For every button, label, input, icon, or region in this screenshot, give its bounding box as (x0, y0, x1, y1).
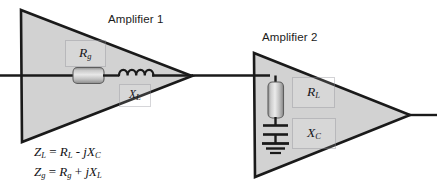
label-xl-sub: L (136, 92, 141, 102)
amplifier-1-title: Amplifier 1 (108, 13, 163, 25)
label-capacitor-xc: XC (292, 118, 336, 149)
resistor-rl-body (268, 82, 284, 118)
equations-block: ZL = RL - jXC Zg = Rg + jXL (34, 142, 102, 181)
label-resistor-rg: Rg (65, 40, 106, 67)
label-rl-main: R (307, 84, 315, 99)
amplifier-2-title: Amplifier 2 (262, 31, 317, 43)
label-xc-main: X (307, 125, 315, 140)
equation-source-impedance: Zg = Rg + jXL (34, 162, 102, 182)
eq2-operator: + (72, 164, 86, 179)
label-xc-sub: C (315, 131, 321, 141)
eq1-t2-main: X (87, 144, 95, 159)
eq2-equals: = (45, 164, 59, 179)
label-xl-main: X (129, 88, 136, 100)
eq1-t2-sub: C (95, 150, 101, 160)
eq2-t2-main: X (89, 164, 97, 179)
label-resistor-rl: RL (292, 77, 335, 108)
label-rg-sub: g (87, 51, 91, 61)
eq1-operator: - (73, 144, 84, 159)
eq1-t1-main: R (60, 144, 68, 159)
label-rl-sub: L (315, 90, 320, 100)
circuit-diagram: Amplifier 1 Amplifier 2 Rg XL RL XC ZL =… (0, 0, 437, 187)
equation-load-impedance: ZL = RL - jXC (34, 142, 102, 162)
eq2-t2-sub: L (97, 170, 102, 180)
eq1-equals: = (46, 144, 60, 159)
label-rg-main: R (79, 45, 87, 60)
label-inductor-xl: XL (119, 84, 151, 107)
resistor-rg-body (73, 68, 104, 84)
